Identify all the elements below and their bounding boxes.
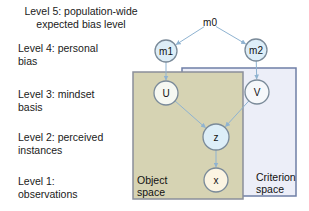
node-z-label: z xyxy=(214,132,219,143)
object-space-label-line1: Object xyxy=(137,174,167,186)
object-space-label-line2: space xyxy=(137,186,165,198)
criterion-space-label-line1: Criterion xyxy=(256,171,296,183)
edge-m0-to-m1 xyxy=(176,27,204,45)
node-V: V xyxy=(245,80,269,104)
node-m2-label: m2 xyxy=(249,45,263,56)
node-x-label: x xyxy=(214,175,219,186)
edge-m0-to-m2 xyxy=(216,27,246,44)
criterion-space-label-line2: space xyxy=(256,183,284,195)
node-U: U xyxy=(154,81,178,105)
node-z: z xyxy=(203,124,229,150)
node-m2: m2 xyxy=(245,39,267,61)
node-U-label: U xyxy=(162,88,169,99)
node-m1: m1 xyxy=(155,40,177,62)
node-x: x xyxy=(204,168,228,192)
node-m0-label: m0 xyxy=(203,17,217,28)
node-m1-label: m1 xyxy=(159,46,173,57)
bias-model-diagram: Object space Criterion space m0 m1 m2 U … xyxy=(0,0,309,211)
node-V-label: V xyxy=(254,87,261,98)
